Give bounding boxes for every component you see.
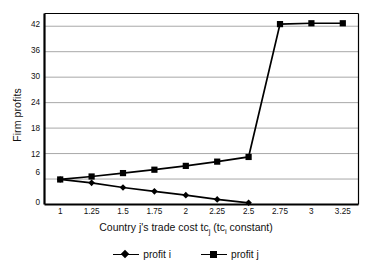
legend-marker-square-icon [201, 250, 227, 260]
chart-figure: Firm profits 42 36 30 24 18 12 6 0 11.25… [0, 0, 372, 275]
x-tick-label: 1.75 [146, 207, 162, 216]
x-axis-title-post: constant) [227, 221, 273, 233]
x-tick-label: 1.5 [117, 207, 128, 216]
legend-label: profit j [231, 249, 259, 260]
legend-marker-diamond-icon [113, 250, 139, 260]
x-tick-label: 2.25 [209, 207, 225, 216]
x-tick-label: 2 [184, 207, 189, 216]
chart-legend: profit i profit j [0, 249, 372, 260]
x-tick-label: 2.75 [272, 207, 288, 216]
x-tick-label: 1.25 [84, 207, 100, 216]
x-axis-title-sub-i: i [225, 227, 227, 236]
legend-item-profit-j[interactable]: profit j [201, 249, 259, 260]
x-axis-title-mid: (tc [210, 221, 225, 233]
x-axis-tick-labels: 11.251.51.7522.252.52.7533.25 [0, 0, 372, 275]
legend-item-profit-i[interactable]: profit i [113, 249, 171, 260]
x-axis-title-pre: Country j's trade cost tc [99, 221, 208, 233]
x-tick-label: 3.25 [335, 207, 351, 216]
legend-label: profit i [143, 249, 171, 260]
x-tick-label: 1 [58, 207, 63, 216]
x-axis-title: Country j's trade cost tcj (tci constant… [0, 221, 372, 233]
x-tick-label: 2.5 [243, 207, 254, 216]
x-tick-label: 3 [309, 207, 314, 216]
